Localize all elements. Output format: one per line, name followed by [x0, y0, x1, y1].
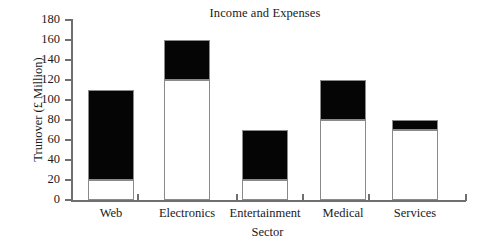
- bar-segment-lower: [242, 180, 288, 200]
- y-tick-mark: [65, 59, 72, 60]
- x-category-label-web: Web: [74, 206, 148, 221]
- x-tick-mark: [137, 194, 138, 201]
- y-tick-label: 100: [20, 93, 60, 106]
- y-tick-label: 0: [20, 193, 60, 206]
- bar-segment-upper: [242, 130, 288, 180]
- y-tick-mark: [65, 159, 72, 160]
- bar-segment-lower: [392, 130, 438, 200]
- bar-segment-upper: [164, 40, 210, 80]
- y-tick-label: 20: [20, 173, 60, 186]
- y-tick-mark: [65, 39, 72, 40]
- x-tick-mark: [302, 194, 303, 201]
- x-axis-title-text: Sector: [252, 225, 284, 239]
- x-tick-mark: [71, 194, 72, 201]
- y-tick-label: 120: [20, 73, 60, 86]
- y-tick-mark: [65, 179, 72, 180]
- y-tick-label: 140: [20, 53, 60, 66]
- bar-electronics[interactable]: [164, 40, 210, 200]
- y-tick-label: 80: [20, 113, 60, 126]
- chart-title: Income and Expenses: [150, 6, 380, 21]
- x-category-label-services: Services: [372, 206, 458, 221]
- bar-segment-upper: [320, 80, 366, 120]
- chart-figure: Income and Expenses Trunover (£ Million)…: [0, 0, 483, 251]
- y-axis-title: Trunover (£ Million): [31, 25, 46, 195]
- y-tick-label: 40: [20, 153, 60, 166]
- y-axis-line: [71, 19, 73, 201]
- bar-segment-lower: [164, 80, 210, 200]
- y-tick-mark: [65, 99, 72, 100]
- y-tick-label: 180: [20, 13, 60, 26]
- x-axis-title: Sector: [0, 225, 483, 240]
- bar-web[interactable]: [88, 90, 134, 200]
- bar-services[interactable]: [392, 120, 438, 200]
- bar-medical[interactable]: [320, 80, 366, 200]
- y-tick-mark: [65, 139, 72, 140]
- y-tick-mark: [65, 119, 72, 120]
- y-tick-mark: [65, 79, 72, 80]
- y-tick-label: 60: [20, 133, 60, 146]
- y-tick-mark: [65, 19, 72, 20]
- x-tick-mark: [236, 194, 237, 201]
- bar-segment-lower: [88, 180, 134, 200]
- bar-segment-upper: [88, 90, 134, 180]
- y-tick-label: 160: [20, 33, 60, 46]
- bar-segment-upper: [392, 120, 438, 130]
- bar-entertainment[interactable]: [242, 130, 288, 200]
- x-tick-mark: [368, 194, 369, 201]
- x-tick-mark: [465, 194, 466, 201]
- bar-segment-lower: [320, 120, 366, 200]
